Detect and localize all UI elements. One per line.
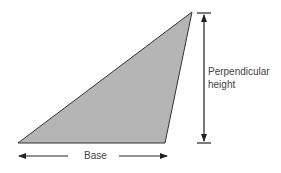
base-label: Base — [84, 149, 107, 162]
height-label-line2: height — [208, 78, 270, 91]
height-label-line1: Perpendicular — [208, 65, 270, 78]
triangle — [18, 12, 192, 143]
height-label: Perpendicular height — [208, 65, 270, 91]
